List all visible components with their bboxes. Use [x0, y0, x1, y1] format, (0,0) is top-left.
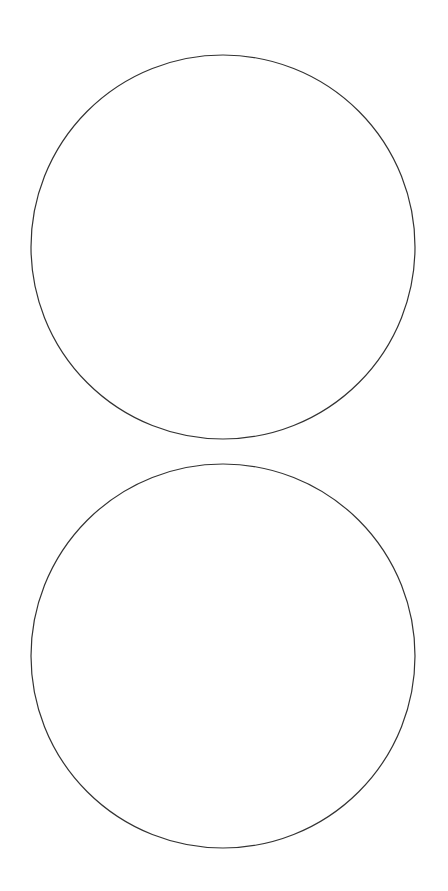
drawing-canvas — [0, 0, 448, 891]
top-circle — [31, 55, 415, 439]
bottom-circle — [31, 464, 415, 848]
